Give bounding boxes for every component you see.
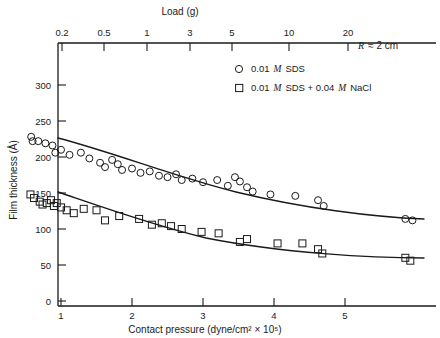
data-point-circle xyxy=(28,133,35,140)
x-tick-label-4: 4 xyxy=(271,310,276,321)
data-point-circle xyxy=(236,178,243,185)
data-series-sds-markers xyxy=(28,133,416,224)
data-point-circle xyxy=(402,215,409,222)
y-axis-title: Film thickness (Å) xyxy=(7,140,19,219)
data-point-circle xyxy=(49,142,56,149)
data-point-circle xyxy=(137,169,144,176)
top-tick-label-1: 0.5 xyxy=(97,27,110,38)
y-tick-label-300: 300 xyxy=(35,80,51,91)
x-tick-label-5: 5 xyxy=(342,310,347,321)
y-tick-label-50: 50 xyxy=(40,260,51,271)
fit-curve-sds-nacl xyxy=(58,192,424,258)
legend-label-sds: 0.01MSDS xyxy=(251,63,305,74)
data-point-circle xyxy=(119,166,126,173)
annotation-radius-rest: ≈ 2 cm xyxy=(368,40,398,51)
figure-container: 0.2 0.5 1 3 5 10 20 Load (g) xyxy=(0,0,440,338)
data-point-square xyxy=(215,230,222,237)
y-tick-label-100: 100 xyxy=(35,224,51,235)
top-tick-label-4: 5 xyxy=(229,27,234,38)
x-axis-ticks xyxy=(61,298,345,306)
data-point-square xyxy=(299,240,306,247)
legend-label-sds-nacl: 0.01MSDS + 0.04MNaCl xyxy=(251,82,371,93)
data-point-circle xyxy=(129,165,136,172)
data-point-circle xyxy=(315,197,322,204)
x-axis-title: Contact pressure (dyne/cm² × 10⁵) xyxy=(128,324,281,335)
data-point-circle xyxy=(146,168,153,175)
data-point-square xyxy=(315,246,322,253)
legend-marker-square-icon xyxy=(236,84,243,91)
data-point-square xyxy=(198,228,205,235)
legend-nacl-suffix2: NaCl xyxy=(350,82,371,93)
data-point-circle xyxy=(102,164,109,171)
top-tick-label-0: 0.2 xyxy=(55,27,68,38)
chart-svg: 0.2 0.5 1 3 5 10 20 Load (g) xyxy=(0,0,440,338)
data-point-square xyxy=(70,210,77,217)
legend-nacl-prefix: 0.01 xyxy=(251,82,270,93)
data-point-circle xyxy=(77,149,84,156)
x-axis: 1 2 3 4 5 Contact pressure (dyne/cm² × 1… xyxy=(58,298,436,335)
annotation-symbol-R: R xyxy=(357,40,364,51)
data-point-square xyxy=(274,240,281,247)
top-tick-label-3: 3 xyxy=(187,27,192,38)
data-point-circle xyxy=(178,177,185,184)
data-point-circle xyxy=(42,140,49,147)
legend-sds-prefix: 0.01 xyxy=(251,63,270,74)
data-point-square xyxy=(80,205,87,212)
data-point-circle xyxy=(164,174,171,181)
data-point-square xyxy=(93,207,100,214)
data-point-circle xyxy=(214,177,221,184)
data-point-circle xyxy=(292,192,299,199)
legend-nacl-molar2: M xyxy=(337,83,347,93)
data-point-square xyxy=(102,217,109,224)
data-point-circle xyxy=(155,172,162,179)
annotation-radius-text: R≈ 2 cm xyxy=(357,40,398,51)
x-tick-label-3: 3 xyxy=(200,310,205,321)
y-tick-label-250: 250 xyxy=(35,116,51,127)
data-point-circle xyxy=(249,188,256,195)
legend-nacl-molar: M xyxy=(273,83,283,93)
legend: 0.01MSDS 0.01MSDS + 0.04MNaCl xyxy=(235,63,371,93)
y-tick-label-200: 200 xyxy=(35,152,51,163)
top-axis-ticks xyxy=(62,43,348,51)
data-point-square xyxy=(244,236,251,243)
legend-sds-molar: M xyxy=(273,64,283,74)
data-point-circle xyxy=(267,191,274,198)
top-axis-tick-labels: 0.2 0.5 1 3 5 10 20 xyxy=(55,27,353,38)
data-point-circle xyxy=(224,182,231,189)
top-tick-label-6: 20 xyxy=(343,27,354,38)
legend-marker-circle-icon xyxy=(235,65,242,72)
data-point-circle xyxy=(66,151,73,158)
y-axis: 0 50 100 150 200 250 300 Film thickness … xyxy=(7,43,66,307)
top-tick-label-2: 1 xyxy=(144,27,149,38)
annotation-radius: R≈ 2 cm xyxy=(357,40,398,51)
y-tick-label-0: 0 xyxy=(46,296,51,307)
legend-nacl-suffix: SDS + 0.04 xyxy=(285,82,334,93)
x-tick-label-1: 1 xyxy=(58,310,63,321)
legend-sds-suffix: SDS xyxy=(285,63,305,74)
x-axis-tick-labels: 1 2 3 4 5 xyxy=(58,310,347,321)
x-tick-label-2: 2 xyxy=(129,310,134,321)
y-axis-tick-labels: 0 50 100 150 200 250 300 xyxy=(35,80,51,307)
data-point-circle xyxy=(86,155,93,162)
top-tick-label-5: 10 xyxy=(284,27,295,38)
top-axis-title: Load (g) xyxy=(161,6,198,17)
